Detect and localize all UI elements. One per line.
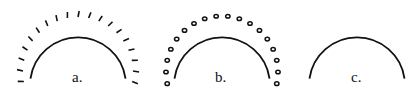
panel-c-label: c. [351, 69, 361, 86]
radial-dash [117, 29, 122, 32]
particle-dot [182, 29, 186, 33]
radial-dash [133, 71, 139, 72]
radial-dash [22, 47, 27, 50]
radial-dash [129, 49, 135, 50]
radial-dash [45, 20, 47, 26]
particle-dot [174, 37, 178, 41]
particle-dot [169, 47, 173, 51]
particle-dot [192, 22, 196, 26]
particle-dot [275, 59, 279, 63]
radial-dash [99, 16, 102, 21]
particle-dot [226, 15, 230, 19]
panel-b-label: b. [215, 69, 226, 86]
particle-dot [214, 15, 218, 19]
particle-dot [165, 82, 169, 86]
particle-dot [165, 59, 169, 63]
radial-dash [17, 70, 23, 71]
particle-dot [202, 17, 206, 21]
particle-dot [257, 29, 261, 33]
radial-dash [78, 11, 79, 17]
particle-dot [237, 17, 241, 21]
particle-dot [248, 22, 252, 26]
radial-dash [123, 38, 129, 40]
particle-dot [275, 82, 279, 86]
radial-dash [89, 12, 91, 18]
particle-dot [164, 70, 168, 74]
radial-dash [56, 15, 57, 21]
radial-dash [132, 82, 138, 84]
particle-dot [265, 37, 269, 41]
particle-dot [276, 70, 280, 74]
radial-dash [28, 37, 32, 41]
radial-dash [108, 22, 112, 26]
particle-dot [271, 47, 275, 51]
radial-dash [36, 28, 39, 33]
radial-dash [19, 58, 25, 60]
panel-a-label: a. [72, 69, 82, 86]
